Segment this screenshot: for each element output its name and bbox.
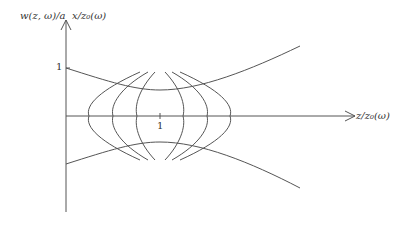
x-axis-label: z/z₀(ω): [356, 110, 390, 121]
y-axis-label-right: x/z₀(ω): [72, 10, 106, 21]
y-axis-label-left: w(z, ω)/a: [20, 10, 65, 21]
y-tick-label: 1: [56, 61, 62, 72]
beam-envelope-lower: [66, 142, 300, 188]
beam-envelope-upper: [66, 46, 300, 90]
x-tick-label: 1: [157, 120, 163, 131]
beam-diagram: [0, 0, 399, 228]
